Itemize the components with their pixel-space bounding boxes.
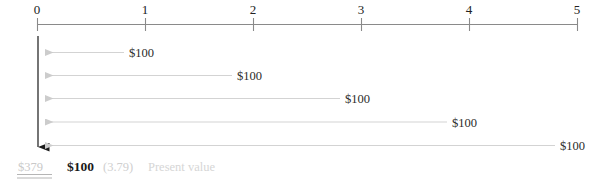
cash-flow-label-4: $100 — [452, 116, 477, 130]
cash-flow-row-2: $100 — [45, 69, 262, 83]
cash-flow-row-5: $100 — [45, 139, 585, 153]
cash-flow-label-1: $100 — [129, 46, 154, 60]
time-axis: 0 1 2 3 4 5 — [34, 2, 581, 31]
cash-flow-label-3: $100 — [345, 92, 370, 106]
cash-flow-label-2: $100 — [237, 69, 262, 83]
cash-flow-label-5: $100 — [560, 139, 585, 153]
axis-tick-label-4: 4 — [466, 2, 473, 17]
axis-tick-label-2: 2 — [250, 2, 257, 17]
axis-tick-label-0: 0 — [34, 2, 41, 17]
present-value-amount: $100 — [67, 159, 94, 174]
axis-tick-label-1: 1 — [142, 2, 149, 17]
present-value-summary: $379 $100 (3.79) Present value — [17, 159, 215, 178]
present-value-caption: Present value — [148, 160, 215, 174]
cash-flow-row-1: $100 — [45, 46, 154, 60]
present-value-annuity-factor: (3.79) — [103, 160, 133, 174]
cash-flow-row-3: $100 — [45, 92, 370, 106]
present-value-timeline-figure: 0 1 2 3 4 5 $100 $100 $100 $100 $100 — [0, 0, 600, 188]
axis-tick-label-3: 3 — [358, 2, 365, 17]
present-value-total: $379 — [18, 160, 43, 174]
cash-flow-arrows: $100 $100 $100 $100 $100 — [45, 46, 585, 153]
axis-tick-label-5: 5 — [574, 2, 581, 17]
cash-flow-row-4: $100 — [45, 116, 477, 130]
